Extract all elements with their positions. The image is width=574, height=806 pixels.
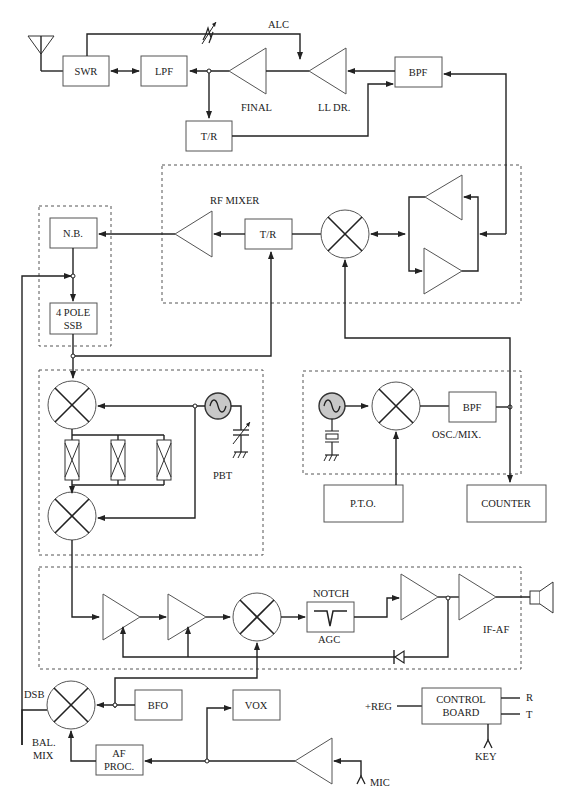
reg-label: +REG <box>365 701 392 712</box>
af-amplifier-1 <box>401 574 438 620</box>
rf-mixer-label: RF MIXER <box>210 195 259 206</box>
r-label: R <box>526 692 533 703</box>
crystal-filter-2 <box>111 440 125 480</box>
counter-label: COUNTER <box>481 498 531 509</box>
if-amplifier-1 <box>103 594 140 640</box>
speaker-icon <box>530 582 553 613</box>
mic-amplifier <box>295 738 332 784</box>
counter-block: COUNTER <box>467 485 546 522</box>
bfo-label: BFO <box>148 700 169 711</box>
nb-label: N.B. <box>63 228 83 239</box>
vox-label: VOX <box>245 700 268 711</box>
osc-mix-label: OSC./MIX. <box>432 429 481 440</box>
control-board-label-2: BOARD <box>443 707 480 718</box>
tr-rf-block: T/R <box>245 219 292 249</box>
dsb-label: DSB <box>24 689 44 700</box>
osc-mixer <box>372 382 420 430</box>
af-amplifier-2 <box>459 574 496 620</box>
vfo-oscillator-icon <box>319 393 345 419</box>
rx-amplifier <box>425 175 462 220</box>
antenna-icon <box>28 36 63 71</box>
af-proc-label-1: AF <box>112 748 126 759</box>
bpf-top-label: BPF <box>409 67 428 78</box>
vox-block: VOX <box>233 690 280 720</box>
crystal-filter-3 <box>157 440 171 480</box>
control-board-label-1: CONTROL <box>436 694 486 705</box>
bfo-block: BFO <box>135 690 182 720</box>
swr-block: SWR <box>63 56 109 86</box>
pto-label: P.T.O. <box>350 498 376 509</box>
tr-rf-label: T/R <box>260 229 276 240</box>
tr-top-block: T/R <box>186 121 232 151</box>
product-detector <box>233 593 281 641</box>
bpf-top-block: BPF <box>395 57 442 87</box>
ground-icon <box>233 452 248 458</box>
lpf-label: LPF <box>155 66 173 77</box>
bpf-osc-label: BPF <box>463 402 482 413</box>
diode-icon <box>394 650 404 664</box>
ll-dr-label: LL DR. <box>318 102 350 113</box>
ll-dr-amplifier <box>309 48 346 94</box>
control-board-block: CONTROL BOARD <box>422 688 501 724</box>
if-amplifier-2 <box>168 594 206 640</box>
bal-label-1: BAL. <box>32 737 56 748</box>
final-amplifier <box>229 48 266 94</box>
tx-amplifier <box>424 248 462 294</box>
notch-block <box>307 602 354 632</box>
key-label: KEY <box>475 751 497 762</box>
notch-label: NOTCH <box>313 588 350 599</box>
variable-resistor-icon <box>202 22 216 44</box>
ssb-filter-block: 4 POLE SSB <box>50 303 97 334</box>
mic-label: MIC <box>370 777 390 788</box>
bpf-osc-block: BPF <box>449 392 496 422</box>
crystal-filter-1 <box>65 440 79 480</box>
alc-label: ALC <box>268 19 289 30</box>
nb-block: N.B. <box>50 218 97 248</box>
af-proc-block: AF PROC. <box>96 745 143 775</box>
lpf-block: LPF <box>141 56 187 86</box>
bal-label-2: MIX <box>33 750 54 761</box>
ssb-label-1: 4 POLE <box>56 307 90 318</box>
mic-jack-icon <box>357 776 365 784</box>
af-proc-label-2: PROC. <box>104 761 134 772</box>
if-af-label: IF-AF <box>483 624 509 635</box>
key-jack-icon <box>484 740 492 748</box>
tr-top-label: T/R <box>201 131 217 142</box>
pbt-mixer-2 <box>48 492 96 540</box>
pbt-oscillator-icon <box>205 393 231 419</box>
rf-mixer <box>321 210 369 258</box>
pto-block: P.T.O. <box>324 485 403 522</box>
pbt-label: PBT <box>213 470 233 481</box>
rf-amplifier <box>175 211 212 257</box>
swr-label: SWR <box>75 66 98 77</box>
final-label: FINAL <box>241 102 272 113</box>
crystal-icon <box>324 419 339 461</box>
balanced-mixer <box>47 681 95 729</box>
t-label: T <box>526 709 533 720</box>
ssb-label-2: SSB <box>64 320 83 331</box>
agc-label: AGC <box>318 634 340 645</box>
pbt-mixer-1 <box>48 381 96 429</box>
